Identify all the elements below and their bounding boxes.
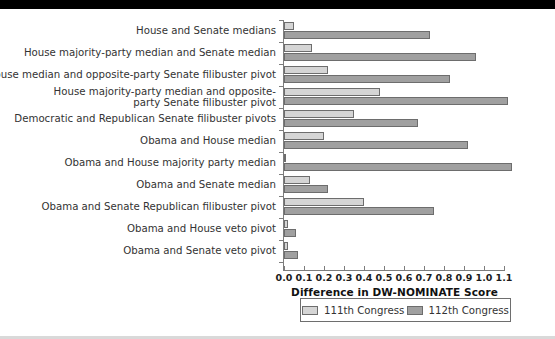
bar-112th bbox=[284, 75, 450, 83]
category-label: Obama and Senate Republican filibuster p… bbox=[41, 201, 276, 213]
category-tick-mark bbox=[279, 218, 284, 219]
category-label: Obama and House veto pivot bbox=[127, 223, 276, 235]
x-tick-label: 0.4 bbox=[356, 272, 373, 283]
x-tick-mark bbox=[304, 266, 305, 270]
bar-chart: House and Senate mediansHouse majority-p… bbox=[0, 9, 555, 336]
x-tick-mark bbox=[344, 266, 345, 270]
x-tick-mark bbox=[284, 266, 285, 270]
category-label: Obama and House majority party median bbox=[64, 157, 276, 169]
x-tick-label: 1.1 bbox=[496, 272, 513, 283]
category-label-line: Democratic and Republican Senate filibus… bbox=[14, 113, 276, 125]
x-tick-mark bbox=[464, 266, 465, 270]
x-tick-label: 0.1 bbox=[296, 272, 313, 283]
category-label-line: House median and opposite-party Senate f… bbox=[0, 69, 276, 81]
x-tick-label: 0.5 bbox=[376, 272, 393, 283]
bar-112th bbox=[284, 163, 512, 171]
category-tick-mark bbox=[279, 42, 284, 43]
category-label: House majority-party median and opposite… bbox=[54, 86, 276, 109]
x-tick-mark bbox=[324, 266, 325, 270]
bar-111th bbox=[284, 88, 380, 96]
bar-111th bbox=[284, 176, 310, 184]
x-tick-label: 0.6 bbox=[396, 272, 413, 283]
category-tick-mark bbox=[279, 108, 284, 109]
category-label: House and Senate medians bbox=[136, 25, 276, 37]
x-tick-mark bbox=[404, 266, 405, 270]
category-tick-mark bbox=[279, 262, 284, 263]
category-label-line: Obama and Senate veto pivot bbox=[123, 245, 276, 257]
x-tick-label: 0.3 bbox=[336, 272, 353, 283]
bar-112th bbox=[284, 53, 476, 61]
category-tick-mark bbox=[279, 86, 284, 87]
x-tick-mark bbox=[444, 266, 445, 270]
bar-111th bbox=[284, 154, 286, 162]
category-tick-mark bbox=[279, 196, 284, 197]
x-tick-label: 0.8 bbox=[436, 272, 453, 283]
bar-112th bbox=[284, 31, 430, 39]
category-label: Obama and House median bbox=[140, 135, 276, 147]
bar-112th bbox=[284, 185, 328, 193]
legend-item-112th: 112th Congress bbox=[407, 305, 509, 316]
legend-swatch-112th bbox=[407, 306, 423, 315]
category-label-line: Obama and House median bbox=[140, 135, 276, 147]
category-label-line: Obama and House veto pivot bbox=[127, 223, 276, 235]
category-tick-mark bbox=[279, 152, 284, 153]
category-label: Obama and Senate veto pivot bbox=[123, 245, 276, 257]
category-tick-mark bbox=[279, 130, 284, 131]
bar-112th bbox=[284, 97, 508, 105]
bar-112th bbox=[284, 207, 434, 215]
figure-page: House and Senate mediansHouse majority-p… bbox=[0, 0, 555, 339]
category-label-line: House and Senate medians bbox=[136, 25, 276, 37]
x-tick-mark bbox=[484, 266, 485, 270]
bar-112th bbox=[284, 119, 418, 127]
x-tick-mark bbox=[504, 266, 505, 270]
x-tick-label: 0.2 bbox=[316, 272, 333, 283]
bar-111th bbox=[284, 44, 312, 52]
x-tick-mark bbox=[384, 266, 385, 270]
x-tick-label: 0.7 bbox=[416, 272, 433, 283]
chart-legend: 111th Congress 112th Congress bbox=[300, 298, 511, 322]
category-label: Democratic and Republican Senate filibus… bbox=[14, 113, 276, 125]
category-label: Obama and Senate median bbox=[136, 179, 276, 191]
category-label-line: Obama and Senate median bbox=[136, 179, 276, 191]
bar-112th bbox=[284, 229, 296, 237]
x-axis-line bbox=[283, 270, 505, 271]
category-label-line: House majority-party median and Senate m… bbox=[24, 47, 276, 59]
bar-112th bbox=[284, 251, 298, 259]
bar-111th bbox=[284, 66, 328, 74]
bar-111th bbox=[284, 242, 288, 250]
category-label-line: Obama and Senate Republican filibuster p… bbox=[41, 201, 276, 213]
bar-111th bbox=[284, 220, 288, 228]
category-label-line: Obama and House majority party median bbox=[64, 157, 276, 169]
category-tick-mark bbox=[279, 174, 284, 175]
legend-label-111th: 111th Congress bbox=[324, 305, 404, 316]
bar-111th bbox=[284, 132, 324, 140]
category-tick-mark bbox=[279, 64, 284, 65]
bar-111th bbox=[284, 110, 354, 118]
bar-112th bbox=[284, 141, 468, 149]
legend-item-111th: 111th Congress bbox=[302, 305, 404, 316]
x-axis-title: Difference in DW-NOMINATE Score bbox=[284, 286, 505, 298]
category-tick-mark bbox=[279, 240, 284, 241]
x-tick-label: 0.9 bbox=[456, 272, 473, 283]
category-label: House majority-party median and Senate m… bbox=[24, 47, 276, 59]
top-black-band bbox=[0, 0, 555, 9]
legend-swatch-111th bbox=[302, 306, 318, 315]
x-tick-label: 0.0 bbox=[276, 272, 293, 283]
x-tick-label: 1.0 bbox=[476, 272, 493, 283]
category-tick-mark bbox=[279, 20, 284, 21]
category-label-line: party Senate filibuster pivot bbox=[54, 97, 276, 109]
x-tick-mark bbox=[424, 266, 425, 270]
x-tick-mark bbox=[364, 266, 365, 270]
bar-111th bbox=[284, 22, 294, 30]
category-label-line: House majority-party median and opposite… bbox=[54, 86, 276, 98]
legend-label-112th: 112th Congress bbox=[429, 305, 509, 316]
bar-111th bbox=[284, 198, 364, 206]
category-label: House median and opposite-party Senate f… bbox=[0, 69, 276, 81]
